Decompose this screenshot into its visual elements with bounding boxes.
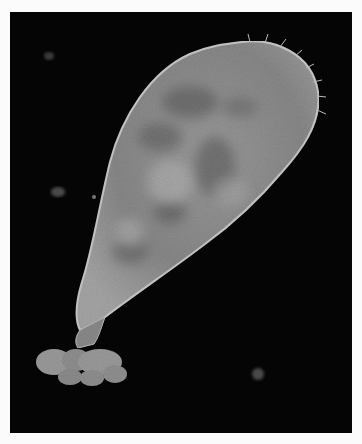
organism-body: [76, 41, 319, 348]
organism-illustration: [10, 12, 352, 433]
micrograph: [10, 12, 352, 433]
attachment-clump: [36, 349, 127, 386]
